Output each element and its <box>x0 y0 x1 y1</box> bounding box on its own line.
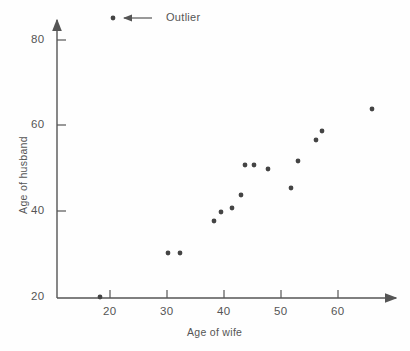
x-axis-title: Age of wife <box>187 326 242 338</box>
data-point <box>370 107 375 112</box>
data-point <box>239 193 244 198</box>
x-tick-label-40: 40 <box>217 305 230 317</box>
scatter-plot-figure: 80 60 40 20 20 30 40 50 60 Age of wife A… <box>0 0 410 351</box>
outlier-annotation-label: Outlier <box>166 11 201 23</box>
y-axis-title: Age of husband <box>17 130 29 220</box>
data-point <box>296 159 301 164</box>
data-point <box>166 251 171 256</box>
data-point <box>289 186 294 191</box>
y-tick-label-40: 40 <box>31 204 44 216</box>
y-tick-label-60: 60 <box>31 118 44 130</box>
data-points <box>98 107 375 300</box>
y-tick-label-80: 80 <box>31 33 44 45</box>
plot-canvas <box>0 0 410 351</box>
x-axis-ticks <box>110 290 338 298</box>
data-point <box>212 219 217 224</box>
x-tick-label-50: 50 <box>274 305 287 317</box>
y-axis-ticks <box>57 40 66 211</box>
data-point <box>230 206 235 211</box>
x-tick-label-20: 20 <box>103 305 116 317</box>
data-point <box>243 163 248 168</box>
x-tick-label-30: 30 <box>160 305 173 317</box>
data-point <box>252 163 257 168</box>
data-point <box>219 210 224 215</box>
data-point <box>178 251 183 256</box>
data-point <box>320 129 325 134</box>
x-tick-label-60: 60 <box>331 305 344 317</box>
y-axis-title-wrapper: Age of husband <box>12 125 28 225</box>
outlier-legend-marker <box>111 16 116 21</box>
data-point-outlier <box>98 295 103 300</box>
outlier-annotation <box>111 16 152 21</box>
y-tick-label-20: 20 <box>31 290 44 302</box>
data-point <box>266 167 271 172</box>
data-point <box>314 138 319 143</box>
